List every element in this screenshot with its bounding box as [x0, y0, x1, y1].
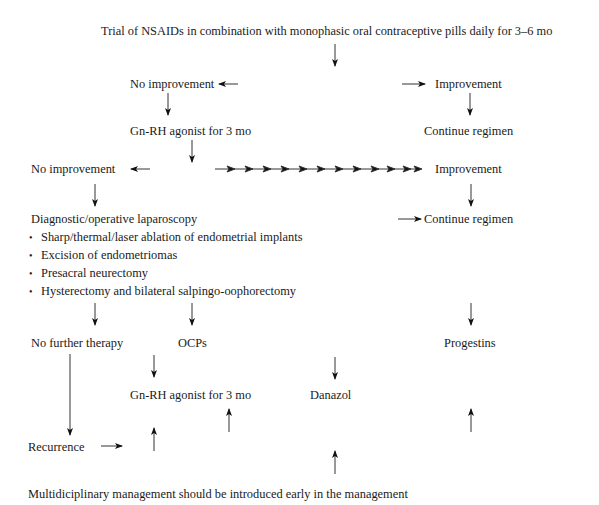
- arrow-chain-icon: [215, 166, 422, 172]
- connector-arrows: [0, 0, 599, 505]
